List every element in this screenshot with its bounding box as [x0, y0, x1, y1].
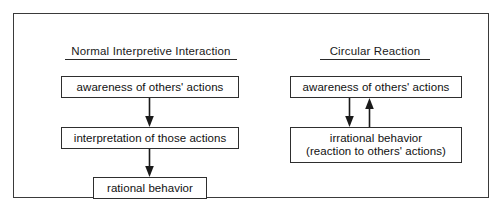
node-label: awareness of others' actions — [77, 81, 224, 94]
node-label: awareness of others' actions — [303, 81, 450, 94]
panel-title-normal-interpretive-interaction: Normal Interpretive Interaction — [65, 45, 237, 60]
panel-title-circular-reaction: Circular Reaction — [320, 45, 430, 60]
node-label-line-2: (reaction to others' actions) — [306, 145, 446, 158]
diagram-outer-frame: Normal Interpretive Interaction awarenes… — [13, 13, 489, 198]
node-label: rational behavior — [107, 182, 193, 195]
node-irrational-behavior: irrational behavior (reaction to others'… — [290, 127, 462, 163]
node-label: interpretation of those actions — [74, 132, 226, 145]
diagram-canvas: Normal Interpretive Interaction awarenes… — [0, 0, 502, 213]
node-label-wrapper: irrational behavior (reaction to others'… — [306, 132, 446, 158]
node-label-line-1: irrational behavior — [306, 132, 446, 145]
node-awareness-of-others-actions-right: awareness of others' actions — [290, 76, 462, 98]
node-rational-behavior: rational behavior — [93, 177, 207, 199]
arrow-up-irrational-behavior-to-awareness — [364, 98, 375, 127]
arrow-down-awareness-to-interpretation — [144, 98, 155, 127]
arrow-down-interpretation-to-rational-behavior — [144, 149, 155, 177]
arrow-down-awareness-to-irrational-behavior — [344, 98, 355, 127]
node-awareness-of-others-actions-left: awareness of others' actions — [61, 76, 239, 98]
node-interpretation-of-those-actions: interpretation of those actions — [61, 127, 239, 149]
